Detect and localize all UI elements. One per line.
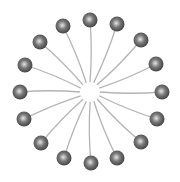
head-sphere-7: [110, 151, 125, 166]
head-sphere-14: [33, 35, 48, 50]
head-sphere-3: [149, 57, 164, 72]
micelle-diagram: [0, 0, 180, 182]
head-sphere-9: [57, 151, 72, 166]
head-sphere-2: [134, 33, 149, 48]
head-sphere-15: [56, 19, 71, 34]
head-sphere-12: [13, 85, 28, 100]
head-sphere-13: [18, 58, 33, 73]
head-sphere-5: [150, 112, 165, 127]
head-sphere-1: [110, 17, 125, 32]
head-sphere-10: [34, 136, 49, 151]
head-sphere-8: [84, 156, 99, 171]
head-sphere-11: [17, 112, 32, 127]
head-sphere-4: [155, 85, 170, 100]
head-sphere-0: [83, 13, 98, 28]
head-sphere-6: [134, 135, 149, 150]
